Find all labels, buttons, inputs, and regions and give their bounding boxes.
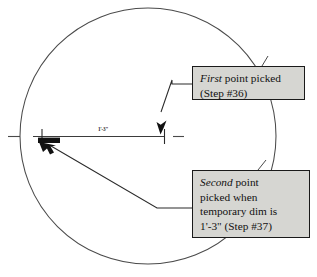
callout-first-point[interactable]: First point picked (Step #36) (192, 66, 305, 100)
callout-first-line1-rest: point picked (222, 72, 281, 84)
callout-second-point[interactable]: Second point picked when temporary dim i… (192, 170, 310, 238)
callout-first-emphasis: First (200, 72, 222, 84)
callout-second-line2: picked when (200, 190, 303, 205)
callout-second-line3: temporary dim is (200, 204, 303, 219)
callout-second-arc-stub (258, 160, 266, 170)
snap-marker-icon (38, 138, 60, 143)
second-point-cursor-icon (39, 142, 56, 155)
callout-second-line1: Second point (200, 175, 303, 190)
callout-first-line2: (Step #36) (200, 86, 298, 101)
callout-second-line4: 1'-3" (Step #37) (200, 219, 303, 234)
callout-second-line1-rest: point (233, 176, 259, 188)
callout-first-line1: First point picked (200, 71, 298, 86)
leader-line-first (161, 80, 192, 112)
dimension-text: 1'-3" (87, 126, 119, 132)
callout-second-emphasis: Second (200, 176, 233, 188)
diagram-canvas: 1'-3" First point picked (Step #36) Seco… (0, 0, 317, 277)
leader-line-second (51, 146, 192, 208)
callout-first-arc-stub (262, 56, 268, 66)
